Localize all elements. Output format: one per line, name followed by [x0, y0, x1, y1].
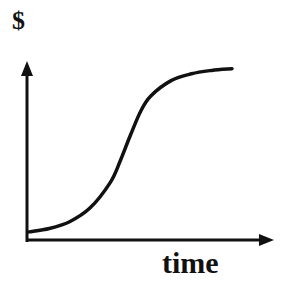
y-axis-arrow-icon	[21, 61, 33, 76]
x-axis-label: time	[162, 248, 219, 278]
y-axis-label: $	[12, 8, 25, 34]
s-curve-line	[29, 69, 232, 232]
x-axis-arrow-icon	[259, 234, 274, 246]
chart-canvas	[0, 0, 283, 286]
s-curve-chart: $ time	[0, 0, 283, 286]
